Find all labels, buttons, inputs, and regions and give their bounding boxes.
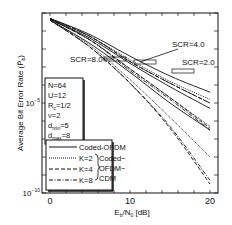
y-tick-1e-10: 10−10 (23, 187, 41, 198)
legend: Coded-OFDM K=2 K=4 K=8 Coded− OFDM− CDM (46, 140, 126, 191)
param-n: N=64 (48, 81, 66, 90)
legend-label-k2: K=2 (79, 154, 93, 163)
legend-group-label-2: OFDM− (99, 164, 126, 173)
param-rc: Rc=1/2 (48, 101, 71, 111)
y-axis-label: Average Bit Error Rate (P̃b) (16, 55, 26, 151)
annotation-scr-2-box (172, 69, 194, 73)
param-u: U=12 (48, 91, 66, 100)
x-axis-label: Eb/N0 [dB] (114, 208, 149, 218)
ber-chart: 0 10 20 10−5 10−10 Eb/N0 [dB] Average Bi… (0, 0, 232, 225)
legend-label-k4: K=4 (79, 165, 93, 174)
y-tick-1e-5: 10−5 (25, 97, 40, 108)
annotation-scr-4: SCR=4.0 (172, 40, 205, 49)
legend-label-coded-ofdm: Coded-OFDM (79, 143, 126, 152)
params-box: N=64 U=12 Rc=1/2 ν=2 dmin=5 dmax=8 (45, 78, 84, 146)
annotation-scr-8: SCR=8.0 (70, 55, 103, 64)
legend-label-k8: K=8 (79, 176, 93, 185)
x-tick-20: 20 (205, 196, 215, 206)
param-nu: ν=2 (48, 111, 60, 120)
legend-group-label-1: Coded− (99, 154, 126, 163)
x-tick-10: 10 (125, 196, 135, 206)
annotation-scr-2: SCR=2.0 (182, 58, 215, 67)
x-tick-0: 0 (47, 196, 52, 206)
legend-group-label-3: CDM (99, 174, 116, 183)
